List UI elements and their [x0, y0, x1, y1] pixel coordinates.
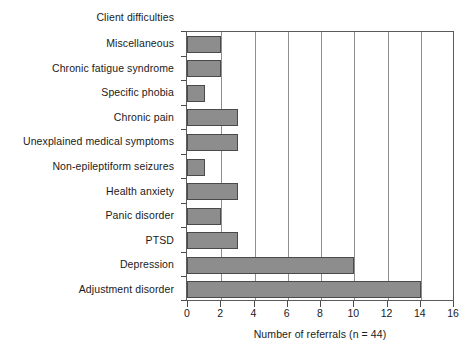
value-tick-label: 2 — [217, 307, 223, 319]
x-axis-title: Number of referrals (n = 44) — [186, 328, 454, 340]
value-tick-label: 8 — [317, 307, 323, 319]
category-label: Chronic fatigue syndrome — [0, 62, 174, 74]
category-axis-labels: MiscellaneousChronic fatigue syndromeSpe… — [0, 31, 174, 301]
category-label: PTSD — [0, 234, 174, 246]
bar — [187, 36, 221, 53]
category-label: Miscellaneous — [0, 37, 174, 49]
gridline — [421, 32, 422, 300]
category-label: Depression — [0, 258, 174, 270]
value-axis-tick-labels: 0246810121416 — [0, 307, 476, 323]
bar — [187, 60, 221, 77]
value-tick-label: 10 — [347, 307, 359, 319]
bar — [187, 159, 205, 176]
category-label: Unexplained medical symptoms — [0, 135, 174, 147]
y-axis-title: Client difficulties — [0, 11, 174, 23]
category-label: Panic disorder — [0, 209, 174, 221]
bar-chart-figure: Client difficulties MiscellaneousChronic… — [0, 0, 476, 357]
plot-area — [186, 31, 454, 301]
bar — [187, 281, 421, 298]
bar — [187, 109, 238, 126]
gridline — [388, 32, 389, 300]
bar — [187, 208, 221, 225]
value-tick-label: 12 — [381, 307, 393, 319]
category-label: Adjustment disorder — [0, 283, 174, 295]
category-label: Non-epileptiform seizures — [0, 160, 174, 172]
category-label: Health anxiety — [0, 185, 174, 197]
value-tick-label: 6 — [284, 307, 290, 319]
value-tick-label: 4 — [251, 307, 257, 319]
value-tick-label: 14 — [414, 307, 426, 319]
bar — [187, 232, 238, 249]
bar — [187, 85, 205, 102]
value-tick-label: 0 — [184, 307, 190, 319]
bar — [187, 183, 238, 200]
category-label: Specific phobia — [0, 86, 174, 98]
gridline — [354, 32, 355, 300]
value-tick-label: 16 — [447, 307, 459, 319]
category-label: Chronic pain — [0, 111, 174, 123]
bar — [187, 134, 238, 151]
bar — [187, 257, 354, 274]
